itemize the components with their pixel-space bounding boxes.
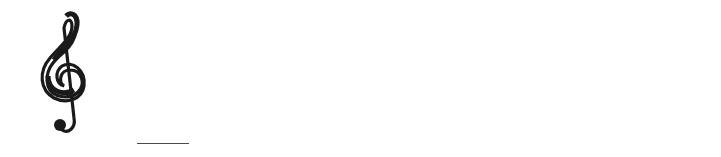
- treble-clef-icon: [42, 14, 84, 132]
- music-staff: [0, 0, 721, 157]
- lyric-extender-line: [137, 143, 189, 144]
